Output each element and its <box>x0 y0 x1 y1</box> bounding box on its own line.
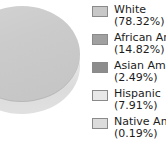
legend-value-african-am: (14.82%) <box>114 44 166 56</box>
legend-item-african-am[interactable]: African Am (14.82%) <box>92 31 166 59</box>
legend-label-native-am: Native Am <box>114 116 166 128</box>
legend-text-hispanic: Hispanic (7.91%) <box>114 87 161 111</box>
legend-label-african-am: African Am <box>114 32 166 44</box>
legend-item-native-am[interactable]: Native Am (0.19%) <box>92 115 166 143</box>
legend-item-hispanic[interactable]: Hispanic (7.91%) <box>92 87 166 115</box>
pie-chart-graphic <box>0 6 80 118</box>
chart-legend: White (78.32%) African Am (14.82%) Asian… <box>92 3 166 143</box>
legend-swatch-hispanic <box>92 90 108 101</box>
legend-text-native-am: Native Am (0.19%) <box>114 115 166 139</box>
legend-item-asian-am[interactable]: Asian Am (2.49%) <box>92 59 166 87</box>
legend-value-hispanic: (7.91%) <box>114 100 161 112</box>
legend-text-asian-am: Asian Am (2.49%) <box>114 59 166 83</box>
legend-label-hispanic: Hispanic <box>114 88 161 100</box>
legend-swatch-african-am <box>92 34 108 45</box>
legend-swatch-white <box>92 6 108 17</box>
legend-item-white[interactable]: White (78.32%) <box>92 3 166 31</box>
legend-text-african-am: African Am (14.82%) <box>114 31 166 55</box>
legend-value-asian-am: (2.49%) <box>114 72 166 84</box>
pie-chart-screenshot: White (78.32%) African Am (14.82%) Asian… <box>0 0 166 144</box>
legend-swatch-asian-am <box>92 62 108 73</box>
legend-value-native-am: (0.19%) <box>114 128 166 140</box>
legend-value-white: (78.32%) <box>114 16 165 28</box>
legend-label-asian-am: Asian Am <box>114 60 166 72</box>
legend-label-white: White <box>114 4 165 16</box>
legend-text-white: White (78.32%) <box>114 3 165 27</box>
legend-swatch-native-am <box>92 118 108 129</box>
